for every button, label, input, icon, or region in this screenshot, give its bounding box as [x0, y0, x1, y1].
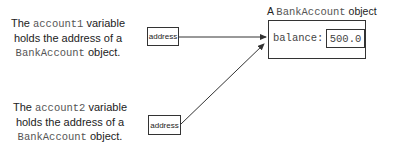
reference-arrows [0, 0, 393, 155]
account2-reference-arrow [181, 44, 264, 124]
